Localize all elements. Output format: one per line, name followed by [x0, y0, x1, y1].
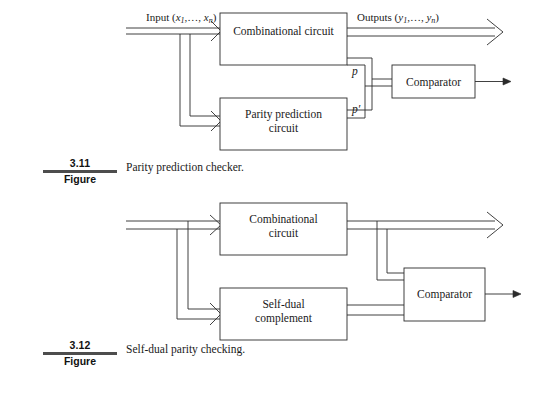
parity-prediction-circuit-label-line2: circuit	[269, 122, 299, 134]
outputs-label: Outputs (y1,…, yn)	[357, 11, 439, 25]
comparator-label: Comparator	[406, 76, 461, 89]
combinational-to-comparator-wire	[377, 221, 404, 280]
comparator-label: Comparator	[417, 288, 472, 301]
outputs-bus-wire	[347, 212, 503, 238]
input-label: Input (x1,…, xn)	[146, 11, 217, 25]
input-branch-wire	[177, 221, 221, 325]
input-bus-wire	[126, 215, 221, 235]
input-branch-wire	[180, 34, 221, 131]
figure-word: Figure	[43, 356, 117, 367]
combinational-circuit-label: Combinational circuit	[233, 25, 334, 37]
combinational-circuit-label-line2: circuit	[269, 227, 299, 239]
signal-p-label: p	[351, 65, 358, 78]
combinational-circuit-box	[220, 13, 347, 65]
figure-number: 3.11	[43, 158, 117, 170]
self-dual-complement-label-line1: Self-dual	[262, 298, 304, 310]
figure-3-12-caption: Self-dual parity checking.	[126, 343, 245, 355]
comparator-output-arrow	[485, 291, 521, 298]
figure-number: 3.12	[43, 340, 117, 352]
figure-3-11-diagram: Input (x1,…, xn) Outputs (y1,…, yn) Comb…	[0, 0, 542, 160]
signal-p-prime-label: p′	[351, 103, 361, 116]
self-dual-to-comparator-wire	[347, 305, 404, 315]
figure-3-11-marker: 3.11 Figure	[43, 158, 117, 185]
figure-page: Input (x1,…, xn) Outputs (y1,…, yn) Comb…	[0, 0, 542, 395]
figure-3-12-marker: 3.12 Figure	[43, 340, 117, 367]
figure-3-11-caption: Parity prediction checker.	[126, 161, 244, 173]
figure-3-12-diagram: Combinational circuit Self-dual compleme…	[0, 195, 542, 345]
figure-word: Figure	[43, 174, 117, 185]
combinational-circuit-label-line1: Combinational	[249, 213, 317, 225]
comparator-output-arrow	[475, 78, 511, 85]
input-bus-wire	[126, 21, 221, 41]
parity-prediction-circuit-label-line1: Parity prediction	[245, 108, 322, 121]
self-dual-complement-label-line2: complement	[255, 312, 313, 325]
